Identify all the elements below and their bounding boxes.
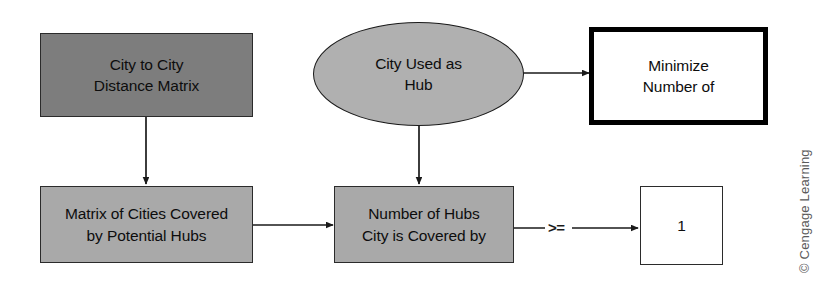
copyright-attribution: © Cengage Learning <box>797 149 812 273</box>
diagram-canvas: City to City Distance Matrix City Used a… <box>0 0 828 287</box>
node-constraint-rhs-value[interactable]: 1 <box>640 186 723 265</box>
node-city-to-city-distance-matrix[interactable]: City to City Distance Matrix <box>40 33 253 117</box>
node-minimize-number-of[interactable]: Minimize Number of <box>589 27 768 125</box>
node-matrix-of-cities-covered[interactable]: Matrix of Cities Covered by Potential Hu… <box>40 186 253 263</box>
node-number-of-hubs-covering-city[interactable]: Number of Hubs City is Covered by <box>334 186 514 263</box>
node-city-used-as-hub[interactable]: City Used as Hub <box>313 22 524 126</box>
edge-label-greater-equal: >= <box>546 219 567 236</box>
